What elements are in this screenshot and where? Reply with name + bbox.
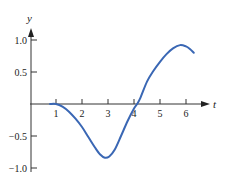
x-axis-label: t xyxy=(213,98,217,110)
y-tick-label: 1.0 xyxy=(15,35,28,46)
data-line xyxy=(50,45,194,158)
y-tick-label: −0.5 xyxy=(9,131,27,142)
x-tick-label: 1 xyxy=(54,108,59,119)
y-axis-arrow-icon xyxy=(28,28,34,37)
y-tick-label: −1.0 xyxy=(9,163,27,174)
x-tick-label: 5 xyxy=(158,108,163,119)
x-tick-label: 6 xyxy=(184,108,189,119)
axes: t y xyxy=(26,12,217,172)
y-axis-label: y xyxy=(26,12,32,24)
x-tick-label: 2 xyxy=(80,108,85,119)
y-tick-label: 0.5 xyxy=(15,67,28,78)
x-axis-arrow-icon xyxy=(201,101,210,107)
line-chart: t y 123456 1.00.5−0.5−1.0 xyxy=(0,0,229,184)
x-tick-label: 3 xyxy=(106,108,111,119)
